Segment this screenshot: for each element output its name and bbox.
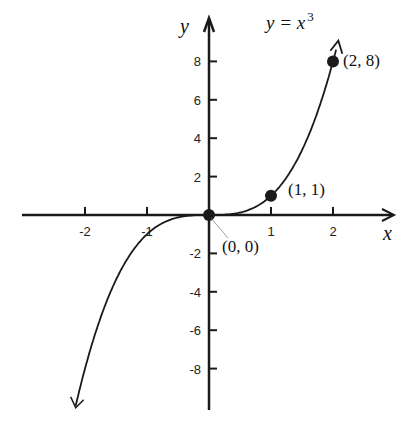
y-tick-label: -6 <box>189 323 201 338</box>
origin-leader-line <box>211 218 228 238</box>
y-tick-label: -8 <box>189 362 201 377</box>
data-point <box>203 209 215 221</box>
y-tick-label: 8 <box>194 54 201 69</box>
point-label: (1, 1) <box>288 180 325 199</box>
x-axis-label: x <box>382 222 392 244</box>
data-point <box>265 190 277 202</box>
x-tick-label: 1 <box>267 224 274 239</box>
y-tick-label: -4 <box>189 285 201 300</box>
point-label: (0, 0) <box>222 237 259 256</box>
y-tick-label: -2 <box>189 246 201 261</box>
y-axis-label: y <box>178 15 189 38</box>
cubic-function-graph: -2-1128642-2-4-6-8(0, 0)(1, 1)(2, 8)yxy … <box>0 0 411 429</box>
x-tick-label: 2 <box>329 224 336 239</box>
cubic-curve <box>76 50 336 406</box>
equation-label: y = x3 <box>264 9 314 33</box>
point-label: (2, 8) <box>343 51 380 70</box>
data-point <box>327 55 339 67</box>
y-tick-label: 2 <box>194 170 201 185</box>
y-tick-label: 6 <box>194 93 201 108</box>
y-tick-label: 4 <box>194 131 201 146</box>
plot-area: -2-1128642-2-4-6-8(0, 0)(1, 1)(2, 8)yxy … <box>0 0 411 429</box>
x-tick-label: -2 <box>79 224 91 239</box>
